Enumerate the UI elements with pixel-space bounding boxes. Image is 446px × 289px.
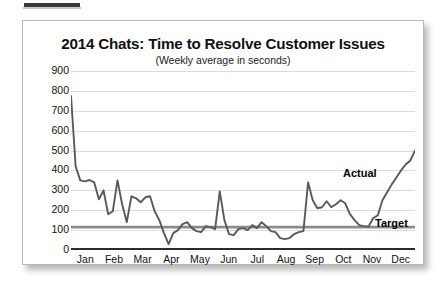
screenshot-root: 2014 Chats: Time to Resolve Customer Iss… [0,0,446,289]
x-tick-label-jun: Jun [220,253,237,265]
x-axis-line [71,248,415,250]
x-tick-label-mar: Mar [134,253,152,265]
chart-subtitle: (Weekly average in seconds) [23,54,423,66]
chart-title: 2014 Chats: Time to Resolve Customer Iss… [23,35,423,52]
x-tick-label-feb: Feb [105,253,123,265]
y-tick-label-100: 100 [29,223,69,235]
y-tick-label-300: 300 [29,183,69,195]
x-tick-label-dec: Dec [391,253,410,265]
plot-area: 9008007006005004003002001000 [71,71,415,250]
x-tick-label-oct: Oct [335,253,351,265]
x-tick-label-apr: Apr [163,253,179,265]
x-tick-label-nov: Nov [363,253,382,265]
top-edge-artifact-shadow [23,7,81,9]
x-tick-label-aug: Aug [277,253,296,265]
x-axis-tick-labels: JanFebMarAprMayJunJulAugSepOctNovDec [71,253,415,269]
y-tick-label-200: 200 [29,203,69,215]
x-tick-label-sep: Sep [305,253,324,265]
y-tick-label-0: 0 [29,243,69,255]
x-tick-label-jul: Jul [251,253,264,265]
y-tick-label-700: 700 [29,104,69,116]
annotation-actual: Actual [343,167,377,179]
chart-card: 2014 Chats: Time to Resolve Customer Iss… [22,20,424,265]
y-tick-label-400: 400 [29,163,69,175]
y-tick-label-500: 500 [29,144,69,156]
x-tick-label-jan: Jan [77,253,94,265]
y-tick-label-800: 800 [29,84,69,96]
series-lines [71,71,415,250]
y-tick-label-900: 900 [29,64,69,76]
y-tick-label-600: 600 [29,124,69,136]
annotation-target: Target [375,217,408,229]
x-tick-label-may: May [190,253,210,265]
